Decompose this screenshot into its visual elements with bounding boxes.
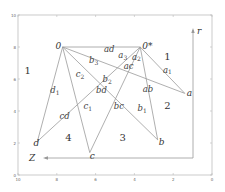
y-tick-label: 8 — [13, 45, 16, 50]
edge-label-b1: b1 — [138, 103, 147, 114]
edge-label-a1: a1 — [163, 65, 172, 76]
vertex-c: c — [90, 151, 95, 161]
y-tick-label: 2 — [13, 141, 16, 146]
z-axis-label: Z — [28, 153, 36, 163]
edge-label-cd: cd — [59, 111, 70, 121]
edge-label-d1: d1 — [50, 85, 59, 96]
x-tick-label: 0 — [211, 177, 214, 182]
edge-label-bd: bd — [96, 85, 107, 95]
edge-label-ad: ad — [104, 44, 115, 54]
edge-label-c2: c2 — [76, 69, 85, 80]
vertex-o: 0 — [56, 41, 62, 51]
axis-tick-labels: 10864200246810 — [11, 13, 214, 183]
edge-label-ab: ab — [143, 84, 154, 94]
edge-label-b3: b3 — [89, 55, 98, 66]
vertex-a: a — [187, 88, 192, 98]
vertex-b: b — [159, 137, 165, 147]
region-label: 1 — [164, 51, 170, 62]
x-tick-label: 4 — [133, 177, 136, 182]
x-tick-label: 6 — [94, 177, 97, 182]
x-tick-label: 10 — [15, 177, 21, 182]
x-tick-label: 2 — [172, 177, 175, 182]
edge-label-ac: ac — [124, 61, 134, 71]
axes-frame — [18, 15, 212, 175]
edge-label-a3: a3 — [118, 50, 127, 61]
region-label: 3 — [120, 132, 126, 143]
vertex-ostar: 0* — [142, 41, 153, 51]
y-tick-label: 6 — [13, 77, 16, 82]
y-tick-label: 4 — [13, 109, 16, 114]
region-label: 4 — [65, 132, 71, 143]
r-arrowhead — [191, 28, 194, 33]
vertex-d: d — [33, 138, 39, 148]
edge-labels: adb3a3a2aca1c2b2bdabd1c1bcb1cd — [50, 44, 172, 121]
edge-label-c1: c1 — [84, 101, 93, 112]
edge-label-b2: b2 — [103, 74, 112, 85]
y-tick-label: 10 — [11, 13, 17, 18]
region-label: 2 — [164, 100, 170, 111]
z-arrowhead — [43, 156, 48, 159]
axis-ticks — [18, 15, 212, 175]
x-tick-label: 8 — [56, 177, 59, 182]
region-label: 1 — [25, 65, 31, 76]
diagram: 10864200246810 Z r 00*abcd 11234 adb3a3a… — [0, 0, 225, 192]
edge-label-bc: bc — [114, 101, 124, 111]
r-axis-label: r — [197, 26, 202, 36]
